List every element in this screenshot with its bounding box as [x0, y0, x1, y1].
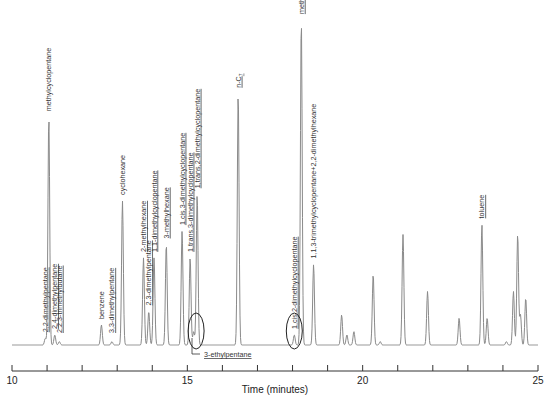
circle-annotations	[188, 313, 302, 349]
chromatogram-chart: 2,2-dimethylpentanemethylcyclopentane2,4…	[0, 0, 548, 404]
circle-annotation	[188, 313, 204, 349]
x-axis-ticks: 10152025	[6, 365, 544, 386]
peak-label: 2,2,3-trimethylbutane	[55, 265, 64, 333]
peak-labels: 2,2-dimethylpentanemethylcyclopentane2,4…	[41, 0, 487, 333]
x-tick-label: 25	[532, 375, 544, 386]
x-tick-label: 15	[182, 375, 194, 386]
peak-label: 3-methylhexane	[162, 187, 171, 238]
x-axis: 10152025 Time (minutes)	[6, 365, 544, 395]
peak-label: benzene	[97, 291, 106, 319]
ethylpentane-label: 3-ethylpentane	[204, 350, 252, 359]
peak-label: 1,1-dimethylcyclopentane	[150, 170, 159, 252]
peak-label: methylcyclohexane	[297, 0, 306, 14]
x-axis-title: Time (minutes)	[242, 384, 308, 395]
peak-label: n-C7	[234, 73, 244, 88]
ethylpentane-callout: 3-ethylpentane	[192, 338, 252, 359]
x-tick-label: 10	[6, 375, 18, 386]
peak-label: methylcyclopentane	[44, 48, 53, 112]
peak-label: 1,1,3-trimethylcyclopentane+2,2-dimethyl…	[309, 104, 318, 259]
peak-label: 2,2-dimethylpentane	[41, 267, 50, 332]
peak-label: cyclohexane	[118, 155, 127, 195]
peak-label: 1,trans,2-dimethylcyclopentane	[193, 89, 202, 188]
chromatogram-trace	[12, 28, 538, 345]
peak-label: 3,3-dimethylpentane	[107, 268, 116, 333]
x-tick-label: 20	[357, 375, 369, 386]
peak-label: toluene	[477, 195, 486, 219]
